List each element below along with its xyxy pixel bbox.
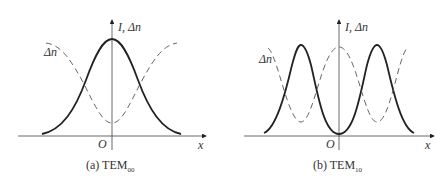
delta-n-curve bbox=[46, 43, 177, 123]
panel-b: I, Δn Δn O x (b) TEM10 bbox=[244, 20, 434, 174]
delta-n-label: Δn bbox=[258, 52, 272, 66]
x-axis-label: x bbox=[424, 138, 431, 152]
y-axis-label: I, Δn bbox=[344, 20, 368, 34]
x-axis-label: x bbox=[197, 138, 204, 152]
caption-a: (a) TEM00 bbox=[86, 158, 135, 174]
caption-b: (b) TEM10 bbox=[313, 158, 363, 174]
delta-n-label: Δn bbox=[43, 45, 57, 59]
y-axis-label: I, Δn bbox=[117, 20, 141, 34]
panel-a: I, Δn Δn O x (a) TEM00 bbox=[18, 20, 206, 174]
origin-label: O bbox=[326, 137, 335, 151]
origin-label: O bbox=[98, 137, 107, 151]
figure: I, Δn Δn O x (a) TEM00 I, Δn Δn O x (b) … bbox=[0, 0, 448, 186]
delta-n-curve bbox=[268, 47, 407, 122]
